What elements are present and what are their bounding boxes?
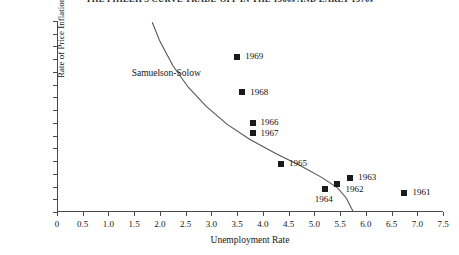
curve-annotation: Samuelson-Solow <box>132 68 201 78</box>
x-axis-title: Unemployment Rate <box>57 235 443 245</box>
data-point-label: 1966 <box>261 118 279 127</box>
x-tick-label: 7.5 <box>423 220 459 229</box>
data-point-marker <box>250 120 256 126</box>
data-point-label: 1964 <box>315 195 333 204</box>
x-tick <box>160 212 161 216</box>
data-point-marker <box>347 175 353 181</box>
x-tick <box>211 212 212 216</box>
data-point-marker <box>234 54 240 60</box>
x-tick <box>417 212 418 216</box>
x-tick <box>392 212 393 216</box>
data-point-label: 1965 <box>289 159 307 168</box>
data-point-marker <box>250 130 256 136</box>
x-tick <box>108 212 109 216</box>
chart-root: THE PHILLIPS CURVE TRADE-OFF IN THE 1960… <box>0 0 459 255</box>
x-tick <box>340 212 341 216</box>
plot-area: 0.51.01.52.02.53.03.54.04.55.05.56.06.57… <box>57 21 443 212</box>
x-tick <box>186 212 187 216</box>
x-tick <box>366 212 367 216</box>
data-point-label: 1961 <box>412 188 430 197</box>
data-point-label: 1962 <box>345 185 363 194</box>
data-point-marker <box>401 190 407 196</box>
x-tick <box>57 212 58 216</box>
data-point-marker <box>322 186 328 192</box>
data-point-marker <box>239 89 245 95</box>
x-tick <box>134 212 135 216</box>
data-point-marker <box>334 181 340 187</box>
data-point-label: 1969 <box>245 52 263 61</box>
chart-title: THE PHILLIPS CURVE TRADE-OFF IN THE 1960… <box>0 0 459 2</box>
x-tick <box>443 212 444 216</box>
data-point-label: 1967 <box>261 129 279 138</box>
x-tick <box>237 212 238 216</box>
data-point-label: 1963 <box>358 173 376 182</box>
data-point-marker <box>278 161 284 167</box>
y-axis-title: Rate of Price Inflation <box>56 0 66 78</box>
x-tick <box>314 212 315 216</box>
data-point-label: 1968 <box>250 88 268 97</box>
x-tick <box>263 212 264 216</box>
x-tick <box>83 212 84 216</box>
phillips-curve <box>57 21 443 212</box>
x-tick <box>289 212 290 216</box>
